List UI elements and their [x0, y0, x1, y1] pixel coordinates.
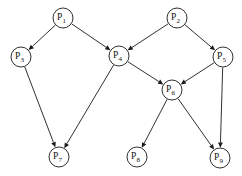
arrowhead-icon [51, 142, 55, 148]
edge-p6-to-p9 [178, 99, 214, 150]
arrowhead-icon [218, 142, 223, 147]
node-circle[interactable] [109, 46, 129, 66]
arrowhead-icon [128, 46, 134, 51]
graph-node-p9[interactable]: P9 [210, 148, 230, 168]
graph-node-p7[interactable]: P7 [49, 147, 69, 167]
graph-node-p1[interactable]: P1 [53, 8, 73, 28]
edge-p5-to-p9 [218, 68, 223, 148]
edge-p3-to-p7 [25, 67, 56, 148]
node-circle[interactable] [53, 8, 73, 28]
directed-graph-figure: P1P2P3P4P5P6P7P8P9 [0, 0, 242, 176]
edge-p1-to-p4 [72, 24, 111, 50]
edge-p6-to-p8 [142, 99, 167, 148]
edges-layer [25, 24, 223, 150]
edge-p2-to-p4 [128, 24, 169, 51]
node-circle[interactable] [162, 80, 182, 100]
graph-node-p3[interactable]: P3 [11, 47, 31, 67]
graph-node-p4[interactable]: P4 [109, 46, 129, 66]
graph-node-p2[interactable]: P2 [167, 8, 187, 28]
node-circle[interactable] [167, 8, 187, 28]
edge-p1-to-p3 [29, 25, 56, 50]
nodes-layer: P1P2P3P4P5P6P7P8P9 [11, 8, 233, 168]
edge-p2-to-p5 [185, 25, 215, 51]
node-circle[interactable] [213, 47, 233, 67]
graph-node-p8[interactable]: P8 [127, 147, 147, 167]
edge-p5-to-p6 [181, 63, 215, 85]
node-circle[interactable] [49, 147, 69, 167]
graph-canvas: P1P2P3P4P5P6P7P8P9 [0, 0, 242, 176]
graph-node-p6[interactable]: P6 [162, 80, 182, 100]
graph-node-p5[interactable]: P5 [213, 47, 233, 67]
edge-p4-to-p7 [64, 65, 113, 148]
node-circle[interactable] [210, 148, 230, 168]
node-circle[interactable] [11, 47, 31, 67]
edge-p4-to-p6 [128, 62, 163, 85]
arrowhead-icon [158, 80, 164, 85]
arrowhead-icon [181, 80, 187, 85]
arrowhead-icon [105, 45, 111, 50]
node-circle[interactable] [127, 147, 147, 167]
arrowhead-icon [209, 144, 214, 150]
